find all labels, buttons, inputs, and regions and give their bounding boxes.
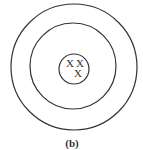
concentric-circles-diagram: X X X (b) [0, 0, 143, 150]
figure-caption: (b) [65, 137, 79, 150]
x-mark-1: X [66, 57, 74, 69]
x-mark-3: X [74, 67, 82, 79]
